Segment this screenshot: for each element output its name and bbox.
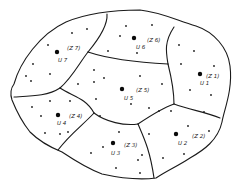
- zone-label: (Z 7): [67, 45, 80, 51]
- boundary-z1-z2: [174, 104, 220, 118]
- zone-partition-diagram: (Z 1)U 1(Z 2)U 2(Z 3)U 3(Z 4)U 4(Z 5)U 5…: [0, 0, 233, 191]
- demand-point: [90, 152, 92, 154]
- zone-z4: (Z 4)U 4: [56, 113, 83, 126]
- demand-point: [178, 44, 180, 46]
- demand-point: [119, 35, 121, 37]
- zone-label: (Z 3): [124, 142, 137, 148]
- demand-point: [30, 80, 32, 82]
- demand-point: [141, 154, 143, 156]
- boundary-z1-z5: [168, 64, 174, 104]
- demand-point: [44, 132, 46, 134]
- demand-point: [47, 44, 49, 46]
- boundary-z5-z2: [138, 104, 174, 124]
- demand-point: [107, 50, 109, 52]
- boundary-z6-z1: [166, 27, 174, 64]
- demand-point: [136, 52, 138, 54]
- demand-point: [193, 50, 195, 52]
- demand-point: [115, 167, 117, 169]
- demand-point: [203, 111, 205, 113]
- demand-point: [25, 75, 27, 77]
- demand-point: [31, 106, 33, 108]
- boundary-z3-z2: [138, 124, 154, 178]
- demand-point: [93, 81, 95, 83]
- demand-point: [170, 110, 172, 112]
- demand-point: [95, 98, 97, 100]
- boundary-z7-z6: [88, 14, 107, 52]
- demand-point: [99, 115, 101, 117]
- zone-label: (Z 1): [206, 73, 219, 79]
- demand-point: [210, 94, 212, 96]
- facility-label: U 6: [136, 44, 146, 50]
- demand-point: [148, 107, 150, 109]
- demand-point: [161, 83, 163, 85]
- facility-label: U 1: [200, 80, 209, 86]
- facility-label: U 4: [57, 120, 67, 126]
- demand-point: [86, 28, 88, 30]
- zone-z7: (Z 7)U 7: [55, 45, 81, 63]
- demand-point: [77, 83, 79, 85]
- facility-center-marker: [55, 50, 59, 54]
- demand-point: [213, 65, 215, 67]
- demand-point: [187, 125, 189, 127]
- facility-label: U 3: [111, 150, 121, 156]
- demand-point: [93, 69, 95, 71]
- boundary-z5-z3: [94, 113, 138, 125]
- demand-point: [162, 157, 164, 159]
- demand-point: [49, 100, 51, 102]
- zone-z6: (Z 6)U 6: [132, 36, 161, 50]
- demand-point: [137, 159, 139, 161]
- demand-point: [189, 89, 191, 91]
- facility-center-marker: [56, 113, 60, 117]
- zone-label: (Z 6): [147, 37, 160, 43]
- boundary-z6-z5: [88, 52, 168, 64]
- demand-point: [71, 32, 73, 34]
- demand-point: [151, 24, 153, 26]
- zone-label: (Z 5): [136, 87, 149, 93]
- facility-label: U 7: [58, 57, 68, 63]
- zone-label: (Z 2): [192, 133, 205, 139]
- demand-point: [118, 131, 120, 133]
- facility-label: U 5: [124, 95, 134, 101]
- facility-center-marker: [132, 36, 136, 40]
- boundary-z4-z5: [60, 88, 94, 113]
- demand-point: [208, 130, 210, 132]
- demand-point: [40, 115, 42, 117]
- demand-point: [103, 77, 105, 79]
- demand-point: [125, 25, 127, 27]
- demand-point: [180, 63, 182, 65]
- demand-point: [69, 100, 71, 102]
- zone-z2: (Z 2)U 2: [174, 132, 206, 146]
- demand-point: [32, 63, 34, 65]
- facility-center-marker: [120, 87, 124, 91]
- zone-z5: (Z 5)U 5: [120, 87, 150, 101]
- demand-point: [139, 172, 141, 174]
- demand-point: [183, 153, 185, 155]
- facility-center-marker: [174, 132, 178, 136]
- facility-label: U 2: [178, 140, 188, 146]
- zone-z1: (Z 1)U 1: [198, 72, 220, 86]
- demand-point: [158, 110, 160, 112]
- zone-z3: (Z 3)U 3: [111, 141, 138, 156]
- demand-point: [102, 146, 104, 148]
- demand-point: [148, 133, 150, 135]
- demand-point: [59, 133, 61, 135]
- demand-point: [130, 103, 132, 105]
- demand-point: [49, 73, 51, 75]
- demand-point: [139, 75, 141, 77]
- boundary-z7-z4: [14, 88, 60, 97]
- demand-point: [67, 131, 69, 133]
- facility-center-marker: [198, 72, 202, 76]
- zone-label: (Z 4): [69, 113, 82, 119]
- facility-center-marker: [111, 141, 115, 145]
